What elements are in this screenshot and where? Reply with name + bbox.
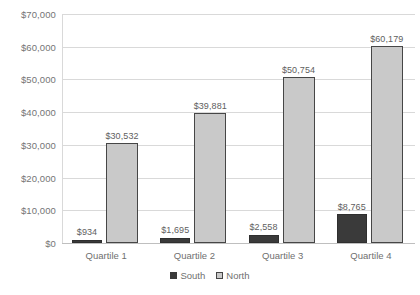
bar-label-north-quartile-4: $60,179: [360, 34, 414, 44]
bar-group-quartile-4: $8,765 $60,179: [327, 14, 415, 243]
legend-label-south: South: [180, 270, 205, 281]
bar-label-south-quartile-1: $934: [64, 227, 110, 237]
x-tick-label-quartile-4: Quartile 4: [327, 243, 415, 267]
legend-swatch-north-icon: [216, 272, 223, 279]
y-tick-label: $50,000: [0, 74, 56, 85]
chart-container: $70,000 $60,000 $50,000 $40,000 $30,000 …: [0, 0, 420, 295]
legend-label-north: North: [226, 270, 249, 281]
bar-label-south-quartile-2: $1,695: [150, 225, 200, 235]
bar-label-south-quartile-4: $8,765: [327, 202, 377, 212]
y-tick-label: $20,000: [0, 173, 56, 184]
bar-north-quartile-3[interactable]: [283, 77, 315, 243]
x-tick-label-quartile-2: Quartile 2: [150, 243, 238, 267]
legend-item-south[interactable]: South: [170, 270, 205, 281]
x-axis-category-labels: Quartile 1 Quartile 2 Quartile 3 Quartil…: [62, 243, 415, 267]
x-tick-label-quartile-1: Quartile 1: [62, 243, 150, 267]
y-tick-label: $0: [0, 238, 56, 249]
bar-groups: $934 $30,532 $1,695 $39,881 $2,558 $50,7…: [62, 14, 415, 243]
chart-legend: South North: [0, 270, 420, 281]
y-tick-label: $60,000: [0, 42, 56, 53]
x-tick-label-quartile-3: Quartile 3: [239, 243, 327, 267]
bar-label-south-quartile-3: $2,558: [239, 222, 289, 232]
y-tick-label: $30,000: [0, 140, 56, 151]
bar-label-north-quartile-3: $50,754: [272, 65, 326, 75]
bar-group-quartile-3: $2,558 $50,754: [239, 14, 327, 243]
y-tick-label: $40,000: [0, 107, 56, 118]
bar-label-north-quartile-1: $30,532: [95, 131, 149, 141]
bar-group-quartile-2: $1,695 $39,881: [150, 14, 238, 243]
bar-south-quartile-4[interactable]: [337, 214, 367, 243]
bar-north-quartile-4[interactable]: [371, 46, 403, 243]
bar-south-quartile-3[interactable]: [249, 235, 279, 243]
bar-group-quartile-1: $934 $30,532: [62, 14, 150, 243]
y-tick-label: $10,000: [0, 205, 56, 216]
legend-swatch-south-icon: [170, 272, 177, 279]
bar-label-north-quartile-2: $39,881: [183, 101, 237, 111]
y-tick-label: $70,000: [0, 9, 56, 20]
bar-north-quartile-1[interactable]: [106, 143, 138, 243]
legend-item-north[interactable]: North: [216, 270, 249, 281]
bar-north-quartile-2[interactable]: [194, 113, 226, 244]
